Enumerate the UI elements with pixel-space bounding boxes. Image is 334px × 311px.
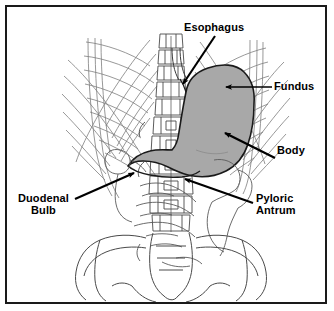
arrow-pyloric-antrum [185, 179, 253, 203]
label-fundus: Fundus [274, 80, 314, 92]
pelvis [75, 233, 266, 302]
label-pyloric-antrum-line2: Antrum [256, 204, 296, 216]
label-duodenal-bulb-line1: Duodenal [18, 192, 69, 204]
label-body: Body [277, 144, 305, 156]
label-pyloric-antrum: PyloricAntrum [256, 192, 296, 216]
arrow-duodenal-bulb [75, 173, 134, 199]
label-duodenal-bulb: DuodenalBulb [18, 192, 69, 216]
label-esophagus: Esophagus [184, 21, 244, 33]
label-pyloric-antrum-line1: Pyloric [256, 192, 293, 204]
figure-page: Esophagus Fundus Body DuodenalBulb Pylor… [0, 0, 334, 311]
label-duodenal-bulb-line2: Bulb [18, 204, 69, 216]
stomach [128, 65, 254, 177]
